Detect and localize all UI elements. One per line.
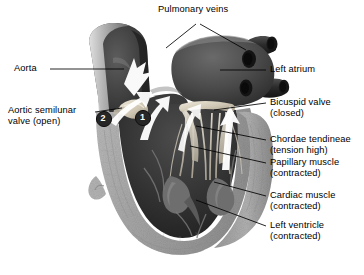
label-papillary-muscle-line2: (contracted) bbox=[270, 168, 321, 179]
label-chordae-tendineae-line1: Chordae tendineae bbox=[270, 134, 351, 145]
marker-1-text: 1 bbox=[140, 112, 145, 123]
heart-diagram-figure: 2 1 Pulmonary veins Aorta Aortic semilun… bbox=[0, 0, 364, 275]
label-cardiac-muscle-line2: (contracted) bbox=[270, 201, 321, 212]
label-left-ventricle-line2: (contracted) bbox=[270, 231, 321, 242]
label-aortic-semilunar-valve-line1: Aortic semilunar bbox=[8, 105, 76, 116]
left-atrium-shape bbox=[171, 36, 275, 107]
label-left-ventricle-line1: Left ventricle bbox=[270, 220, 324, 231]
label-bicuspid-valve-line2: (closed) bbox=[270, 108, 304, 119]
label-bicuspid-valve-line1: Bicuspid valve bbox=[270, 97, 331, 108]
label-papillary-muscle-line1: Papillary muscle bbox=[270, 157, 339, 168]
marker-2-text: 2 bbox=[101, 113, 106, 124]
label-chordae-tendineae-line2: (tension high) bbox=[270, 145, 328, 156]
label-aorta: Aorta bbox=[14, 63, 37, 74]
label-aortic-semilunar-valve-line2: valve (open) bbox=[8, 116, 60, 127]
label-pulmonary-veins: Pulmonary veins bbox=[158, 4, 228, 15]
label-left-atrium: Left atrium bbox=[270, 64, 315, 75]
label-cardiac-muscle-line1: Cardiac muscle bbox=[270, 190, 335, 201]
